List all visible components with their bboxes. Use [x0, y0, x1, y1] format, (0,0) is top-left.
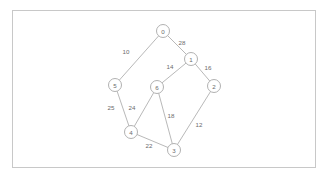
edge-weight-label-1-2: 16 [205, 64, 212, 71]
edge-weight-label-6-3: 18 [168, 112, 175, 119]
edge-weight-label-4-3: 22 [146, 142, 153, 149]
node-label-1: 1 [189, 56, 193, 63]
edge-weight-label-6-4: 24 [129, 104, 136, 111]
edge-weight-label-0-5: 10 [123, 48, 130, 55]
graph-node-0: 0 [157, 25, 170, 38]
graph-node-2: 2 [208, 80, 221, 93]
node-label-5: 5 [113, 82, 117, 89]
node-label-0: 0 [161, 28, 165, 35]
edge-weight-label-0-1: 28 [179, 39, 186, 46]
graph-node-3: 3 [168, 144, 181, 157]
graph-node-5: 5 [109, 79, 122, 92]
graph-node-4: 4 [125, 126, 138, 139]
edge-weight-label-1-6: 14 [167, 63, 174, 70]
graph-canvas: 102814162524182212 0123456 [0, 0, 328, 179]
edge-weight-label-5-4: 25 [108, 104, 115, 111]
node-label-2: 2 [212, 83, 216, 90]
node-label-3: 3 [172, 147, 176, 154]
graph-node-1: 1 [185, 53, 198, 66]
graph-node-6: 6 [151, 81, 164, 94]
node-label-6: 6 [155, 84, 159, 91]
edge-weight-label-2-3: 12 [196, 121, 203, 128]
node-label-4: 4 [129, 129, 133, 136]
graph-figure: 102814162524182212 0123456 [0, 0, 328, 179]
